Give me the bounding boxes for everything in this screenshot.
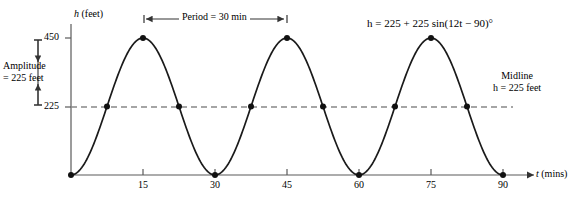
data-point-marker	[284, 35, 290, 41]
x-tick-label-75: 75	[426, 179, 436, 191]
data-point-marker	[356, 172, 362, 178]
y-tick-label-225: 225	[44, 100, 59, 112]
period-annotation: Period = 30 min	[179, 11, 250, 23]
y-axis-symbol: h	[74, 8, 79, 19]
data-point-marker	[104, 104, 110, 110]
amplitude-annotation-line1: Amplitude	[3, 60, 46, 71]
data-point-marker	[500, 172, 506, 178]
x-axis-title: t (mins)	[536, 168, 567, 180]
amplitude-annotation: Amplitude = 225 feet	[3, 60, 46, 83]
data-point-marker	[464, 104, 470, 110]
equation-annotation: h = 225 + 225 sin(12t − 90)°	[367, 17, 493, 30]
x-tick-label-60: 60	[354, 179, 364, 191]
amplitude-annotation-line2: = 225 feet	[3, 72, 44, 83]
x-tick-label-90: 90	[498, 179, 508, 191]
data-point-marker	[176, 104, 182, 110]
data-point-marker	[140, 35, 146, 41]
y-axis-unit: (feet)	[82, 8, 104, 19]
x-axis-unit: (mins)	[541, 168, 567, 179]
data-point-marker	[428, 35, 434, 41]
data-point-marker	[212, 172, 218, 178]
graph-canvas	[0, 0, 579, 201]
data-point-marker	[248, 104, 254, 110]
tide-height-sine-graph-figure: h (feet) t (mins) 450 225 15 30 45 60 75…	[0, 0, 579, 201]
data-point-marker	[392, 104, 398, 110]
data-point-marker	[320, 104, 326, 110]
midline-annotation-line1: Midline	[501, 70, 533, 81]
x-tick-label-15: 15	[138, 179, 148, 191]
midline-annotation: Midline h = 225 feet	[493, 70, 541, 93]
y-axis-title: h (feet)	[74, 8, 103, 20]
x-tick-label-30: 30	[210, 179, 220, 191]
data-point-marker	[68, 172, 74, 178]
midline-annotation-line2: h = 225 feet	[493, 82, 541, 94]
y-tick-label-450: 450	[44, 31, 59, 43]
x-tick-label-45: 45	[282, 179, 292, 191]
x-axis-symbol: t	[536, 168, 539, 179]
